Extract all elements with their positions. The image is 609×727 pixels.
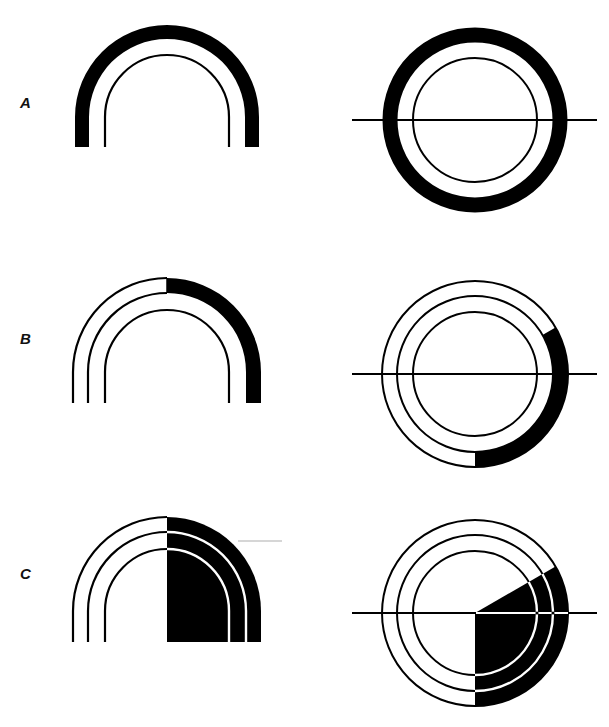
- arch-b: [73, 278, 261, 403]
- arch-b-inner-arc: [105, 310, 229, 403]
- arch-c-inner-arc: [105, 549, 167, 642]
- arch-a-inner-arc: [105, 55, 229, 147]
- arch-c-middle-arc: [88, 532, 167, 642]
- arch-a-outer-band: [75, 25, 259, 147]
- arch-b-middle-arc: [88, 293, 167, 403]
- diagram-canvas: [0, 0, 609, 727]
- ring-a: [352, 35, 597, 205]
- ring-c-shaded-sector: [475, 567, 568, 707]
- arch-b-shaded-band: [167, 278, 261, 403]
- arch-a: [75, 25, 259, 147]
- arch-c: [73, 517, 282, 642]
- ring-c-node-middle: [551, 611, 554, 614]
- ring-c: [352, 520, 597, 706]
- ring-c-node-inner: [535, 611, 538, 614]
- ring-b-shaded-band: [475, 328, 568, 468]
- ring-b: [352, 281, 597, 467]
